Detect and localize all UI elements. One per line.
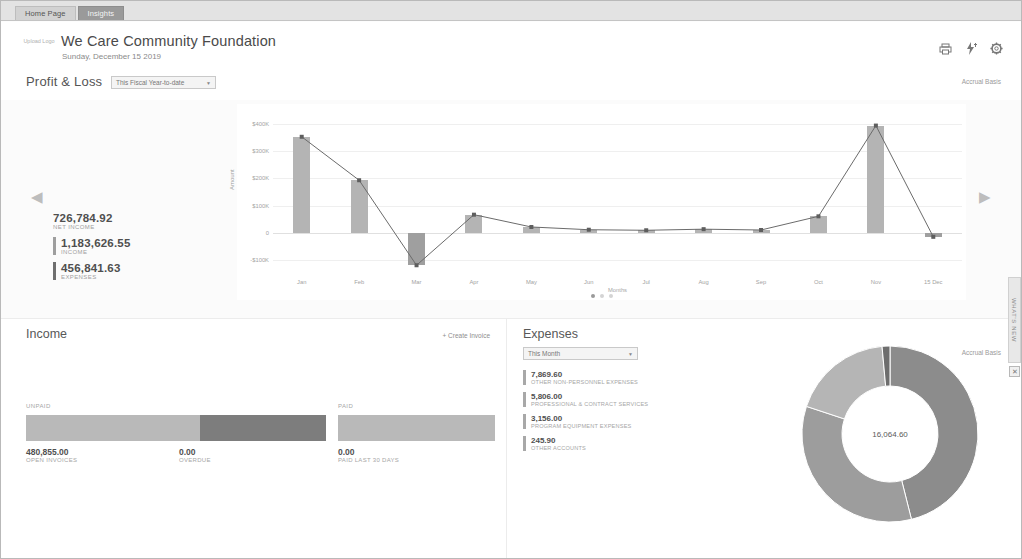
- income-header: Income + Create Invoice: [26, 327, 490, 341]
- kpi-income-value: 1,183,626.55: [61, 237, 203, 249]
- header-icon-group: [939, 42, 1003, 55]
- chart-x-tick-label: Apr: [469, 279, 478, 285]
- chevron-down-icon: ▼: [198, 80, 211, 86]
- bolt-icon[interactable]: [965, 42, 977, 55]
- kpi-group: 726,784.92 NET INCOME 1,183,626.55 INCOM…: [53, 212, 203, 287]
- kpi-expenses: 456,841.63 EXPENSES: [53, 262, 203, 280]
- carousel-dot[interactable]: [609, 294, 613, 298]
- whats-new-rail[interactable]: WHAT'S NEW: [1008, 277, 1021, 363]
- chart-y-tick-label: 0: [266, 230, 269, 236]
- income-title: Income: [26, 327, 67, 341]
- profit-loss-chart: Amount $400K$300K$200K$100K0-$100KJanFeb…: [237, 104, 966, 300]
- kpi-income-label: INCOME: [61, 249, 203, 255]
- chart-y-tick-label: $200K: [252, 175, 269, 181]
- expenses-panel: Expenses This Month ▼ Accrual Basis 7,86…: [507, 319, 1021, 558]
- income-panel: Income + Create Invoice UNPAID PAID 480,…: [1, 319, 506, 558]
- stat-open-invoices-value: 480,855.00: [26, 447, 77, 457]
- profit-loss-period-value: This Fiscal Year-to-date: [116, 79, 184, 86]
- chart-y-tick-label: $400K: [252, 121, 269, 127]
- upload-logo-label: Upload Logo: [23, 38, 54, 44]
- stat-open-invoices-label: OPEN INVOICES: [26, 457, 77, 463]
- paid-bar[interactable]: [338, 415, 495, 441]
- paid-label: PAID: [338, 403, 353, 409]
- profit-loss-period-select[interactable]: This Fiscal Year-to-date ▼: [111, 76, 216, 89]
- expenses-period-select[interactable]: This Month ▼: [523, 347, 638, 360]
- kpi-expenses-label: EXPENSES: [61, 274, 203, 280]
- carousel-dot[interactable]: [591, 294, 595, 298]
- chart-x-tick-label: Jul: [642, 279, 649, 285]
- chart-x-tick-label: Sep: [756, 279, 766, 285]
- upload-logo-placeholder[interactable]: Upload Logo: [23, 37, 55, 59]
- chart-y-tick-label: -$100K: [250, 257, 269, 263]
- donut-slice[interactable]: [806, 346, 885, 419]
- close-icon[interactable]: ✕: [1009, 366, 1020, 377]
- print-icon[interactable]: [939, 43, 952, 55]
- stat-paid-label: PAID LAST 30 DAYS: [338, 457, 399, 463]
- company-header: Upload Logo We Care Community Foundation…: [1, 22, 1021, 74]
- current-date: Sunday, December 15 2019: [62, 52, 161, 61]
- chart-x-axis-title: Months: [608, 287, 627, 293]
- donut-total-value: 16,064.60: [872, 430, 908, 439]
- insights-dashboard-window: Home Page Insights Upload Logo We Care C…: [0, 0, 1022, 559]
- chevron-down-icon: ▼: [620, 351, 633, 357]
- stat-paid-last-30-days: 0.00 PAID LAST 30 DAYS: [338, 447, 399, 463]
- carousel-dot[interactable]: [600, 294, 604, 298]
- unpaid-overdue-segment[interactable]: [200, 415, 326, 441]
- chart-y-tick-label: $300K: [252, 148, 269, 154]
- chart-y-tick-label: $100K: [252, 203, 269, 209]
- chart-y-axis-title: Amount: [229, 169, 235, 190]
- stat-overdue-value: 0.00: [179, 447, 211, 457]
- whats-new-label: WHAT'S NEW: [1012, 298, 1018, 342]
- unpaid-bar[interactable]: [26, 415, 326, 441]
- gear-icon[interactable]: [990, 42, 1003, 55]
- chart-x-tick-label: Jun: [584, 279, 593, 285]
- chart-x-tick-label: Jan: [297, 279, 306, 285]
- profit-loss-basis: Accrual Basis: [962, 78, 1001, 85]
- carousel-prev-button[interactable]: ◀: [31, 188, 43, 206]
- profit-loss-title: Profit & Loss: [26, 74, 102, 89]
- stat-overdue: 0.00 OVERDUE: [179, 447, 211, 463]
- kpi-net-income: 726,784.92 NET INCOME: [53, 212, 203, 230]
- bottom-panels: Income + Create Invoice UNPAID PAID 480,…: [1, 318, 1021, 558]
- chart-x-tick-label: May: [526, 279, 537, 285]
- chart-x-tick-label: Nov: [871, 279, 881, 285]
- create-invoice-link[interactable]: + Create Invoice: [442, 332, 490, 339]
- stat-paid-value: 0.00: [338, 447, 399, 457]
- chart-x-tick-label: Oct: [814, 279, 823, 285]
- tab-home-page[interactable]: Home Page: [15, 6, 76, 21]
- expenses-title: Expenses: [523, 327, 1005, 341]
- tab-insights[interactable]: Insights: [78, 6, 125, 21]
- expenses-period-value: This Month: [528, 350, 560, 357]
- kpi-net-income-value: 726,784.92: [53, 212, 203, 224]
- donut-slice[interactable]: [802, 406, 911, 522]
- carousel-dots[interactable]: [591, 294, 613, 298]
- unpaid-label: UNPAID: [26, 403, 51, 409]
- tab-insights-label: Insights: [88, 9, 115, 18]
- chart-x-tick-label: Mar: [412, 279, 422, 285]
- profit-loss-header: Profit & Loss This Fiscal Year-to-date ▼…: [1, 74, 1021, 98]
- expenses-donut-chart[interactable]: 16,064.60: [797, 341, 983, 527]
- stat-overdue-label: OVERDUE: [179, 457, 211, 463]
- page-title: We Care Community Foundation: [61, 33, 276, 49]
- chart-plot-area: $400K$300K$200K$100K0-$100KJanFebMarAprM…: [273, 110, 962, 274]
- chart-x-tick-label: 15 Dec: [924, 279, 942, 285]
- kpi-expenses-value: 456,841.63: [61, 262, 203, 274]
- browser-tab-bar: Home Page Insights: [1, 1, 1021, 21]
- profit-loss-chart-band: ◀ ▶ 726,784.92 NET INCOME 1,183,626.55 I…: [1, 100, 1021, 318]
- chart-x-tick-label: Feb: [354, 279, 364, 285]
- carousel-next-button[interactable]: ▶: [979, 188, 991, 206]
- page-body: Upload Logo We Care Community Foundation…: [1, 22, 1021, 558]
- kpi-net-income-label: NET INCOME: [53, 224, 203, 230]
- kpi-income: 1,183,626.55 INCOME: [53, 237, 203, 255]
- chart-trend-line: [273, 110, 962, 274]
- tab-home-page-label: Home Page: [25, 9, 66, 18]
- unpaid-open-segment[interactable]: [26, 415, 200, 441]
- stat-open-invoices: 480,855.00 OPEN INVOICES: [26, 447, 77, 463]
- chart-x-tick-label: Aug: [698, 279, 708, 285]
